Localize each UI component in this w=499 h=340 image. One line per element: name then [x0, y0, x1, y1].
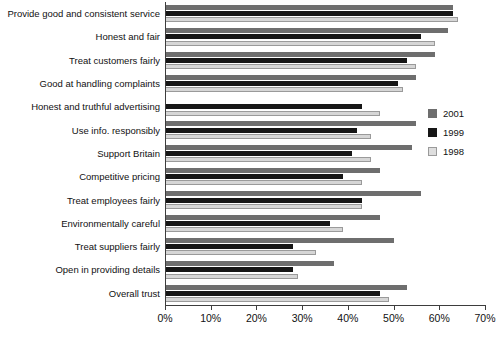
bar-1999	[165, 174, 343, 179]
legend-label: 1999	[443, 127, 464, 138]
category-label: Treat employees fairly	[3, 188, 165, 211]
bar-2001	[165, 75, 416, 80]
bar-2001	[165, 52, 435, 57]
bar-1999	[165, 34, 421, 39]
bar-1998	[165, 274, 298, 279]
legend-label: 2001	[443, 108, 464, 119]
bar-group	[165, 258, 485, 281]
legend-entry: 2001	[428, 104, 494, 123]
bar-1999	[165, 151, 352, 156]
bar-2001	[165, 191, 421, 196]
chart-category-row: Honest and fair	[165, 25, 485, 48]
chart-category-row: Competitive pricing	[165, 165, 485, 188]
bar-2001	[165, 261, 334, 266]
bar-1999	[165, 221, 330, 226]
bar-1999	[165, 128, 357, 133]
category-label: Good at handling complaints	[3, 72, 165, 95]
bar-1998	[165, 87, 403, 92]
chart-category-row: Good at handling complaints	[165, 72, 485, 95]
category-label: Honest and fair	[3, 25, 165, 48]
x-axis-tick	[348, 305, 349, 310]
bar-1998	[165, 111, 380, 116]
bar-1998	[165, 204, 362, 209]
bar-2001	[165, 168, 380, 173]
x-axis-tick	[485, 305, 486, 310]
category-label: Use info. responsibly	[3, 118, 165, 141]
bar-2001	[165, 285, 407, 290]
chart-category-row: Treat employees fairly	[165, 188, 485, 211]
bar-group	[165, 235, 485, 258]
bar-1999	[165, 198, 362, 203]
chart-category-row: Treat suppliers fairly	[165, 235, 485, 258]
bar-group	[165, 282, 485, 305]
bar-group	[165, 165, 485, 188]
bar-1999	[165, 291, 380, 296]
x-axis-tick-label: 10%	[200, 312, 221, 324]
x-axis-tick-label: 50%	[383, 312, 404, 324]
x-axis-tick-label: 70%	[474, 312, 495, 324]
legend: 200119991998	[428, 104, 494, 161]
bar-1998	[165, 180, 362, 185]
x-axis-tick-label: 20%	[246, 312, 267, 324]
category-label: Open in providing details	[3, 258, 165, 281]
bar-1999	[165, 104, 362, 109]
bar-1998	[165, 297, 389, 302]
bar-2001	[165, 121, 416, 126]
category-label: Honest and truthful advertising	[3, 95, 165, 118]
category-label: Overall trust	[3, 282, 165, 305]
category-label: Support Britain	[3, 142, 165, 165]
bar-chart: Provide good and consistent serviceHones…	[0, 0, 499, 340]
bar-1998	[165, 41, 435, 46]
bar-group	[165, 212, 485, 235]
chart-category-row: Overall trust	[165, 282, 485, 305]
bar-1998	[165, 17, 458, 22]
bar-group	[165, 49, 485, 72]
x-axis-tick	[256, 305, 257, 310]
bar-1998	[165, 134, 371, 139]
chart-category-row: Open in providing details	[165, 258, 485, 281]
x-axis-tick-label: 40%	[337, 312, 358, 324]
y-axis-line	[165, 2, 166, 305]
bar-1999	[165, 81, 398, 86]
x-axis-tick	[302, 305, 303, 310]
category-label: Competitive pricing	[3, 165, 165, 188]
bar-1998	[165, 250, 316, 255]
category-label: Environmentally careful	[3, 212, 165, 235]
bar-group	[165, 72, 485, 95]
legend-swatch-icon	[428, 147, 437, 156]
bar-group	[165, 25, 485, 48]
x-axis-tick	[439, 305, 440, 310]
x-axis-tick	[211, 305, 212, 310]
chart-category-row: Environmentally careful	[165, 212, 485, 235]
bar-group	[165, 2, 485, 25]
legend-swatch-icon	[428, 128, 437, 137]
x-axis-tick-label: 60%	[429, 312, 450, 324]
chart-category-row: Provide good and consistent service	[165, 2, 485, 25]
bar-1999	[165, 267, 293, 272]
legend-entry: 1999	[428, 123, 494, 142]
bar-2001	[165, 215, 380, 220]
chart-category-row: Treat customers fairly	[165, 49, 485, 72]
bar-1999	[165, 244, 293, 249]
category-label: Treat suppliers fairly	[3, 235, 165, 258]
bar-1999	[165, 11, 453, 16]
x-axis-tick	[165, 305, 166, 310]
category-label: Treat customers fairly	[3, 49, 165, 72]
legend-entry: 1998	[428, 142, 494, 161]
bar-2001	[165, 28, 448, 33]
x-axis-tick-label: 0%	[157, 312, 172, 324]
bar-2001	[165, 5, 453, 10]
category-label: Provide good and consistent service	[3, 2, 165, 25]
bar-group	[165, 188, 485, 211]
x-axis-line	[165, 305, 486, 306]
bar-1998	[165, 157, 371, 162]
x-axis-tick	[394, 305, 395, 310]
legend-swatch-icon	[428, 109, 437, 118]
bar-2001	[165, 145, 412, 150]
bar-1998	[165, 227, 343, 232]
x-axis-tick-label: 30%	[292, 312, 313, 324]
bar-1998	[165, 64, 416, 69]
legend-label: 1998	[443, 146, 464, 157]
bar-1999	[165, 58, 407, 63]
bar-2001	[165, 238, 394, 243]
